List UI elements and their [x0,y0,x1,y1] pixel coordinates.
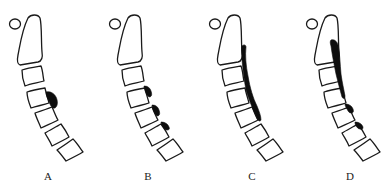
vertebrae-outline [10,15,84,161]
panel-d-spine [307,15,381,161]
panel-label-b: B [138,170,158,182]
panel-label-c: C [242,170,262,182]
panel-c-spine [210,15,284,161]
panel-b-spine [110,15,184,161]
cervical-spine-figure [0,0,383,192]
panel-label-a: A [38,170,58,182]
panel-a-spine [10,15,84,161]
panel-label-d: D [340,170,360,182]
